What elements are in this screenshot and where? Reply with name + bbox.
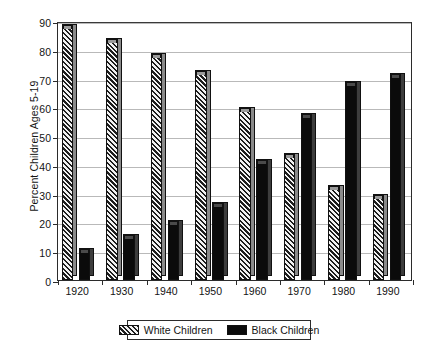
x-tick-label-1940: 1940	[154, 285, 177, 297]
bar-white-children-1960	[239, 107, 255, 280]
bar-white-children-1930	[106, 38, 122, 280]
legend-label-white-children: White Children	[144, 324, 213, 336]
bar-side-face	[224, 202, 228, 276]
bar-top-face	[240, 108, 250, 112]
bar-top-face	[374, 195, 384, 199]
bar-top-face	[196, 71, 206, 75]
bar-front-face	[123, 234, 135, 280]
bar-front-face	[168, 220, 180, 280]
x-tick-mark	[280, 280, 281, 285]
bar-series-container	[58, 23, 411, 280]
bar-side-face	[118, 38, 122, 276]
bar-top-face	[257, 160, 267, 164]
bar-side-face	[162, 53, 166, 276]
bar-top-face	[391, 74, 401, 78]
bar-side-face	[179, 220, 183, 276]
plot-area: 0102030405060708090	[57, 22, 412, 281]
bar-white-children-1990	[373, 194, 389, 280]
bar-white-children-1950	[195, 70, 211, 280]
y-tick-label: 30	[39, 190, 51, 202]
bar-front-face	[284, 153, 296, 280]
legend-item-white-children: White Children	[119, 324, 213, 336]
bar-side-face	[73, 24, 77, 276]
bar-front-face	[106, 38, 118, 280]
bar-white-children-1980	[328, 185, 344, 280]
bar-front-face	[212, 202, 224, 280]
bar-top-face	[152, 54, 162, 58]
x-tick-mark	[147, 280, 148, 285]
x-tick-mark	[324, 280, 325, 285]
bar-side-face	[384, 194, 388, 276]
x-tick-mark	[58, 280, 59, 285]
bar-front-face	[195, 70, 207, 280]
bar-top-face	[346, 82, 356, 86]
bar-front-face	[62, 24, 74, 280]
bar-chart-figure: Percent Children Ages 5-19 0102030405060…	[0, 0, 438, 353]
bar-front-face	[256, 159, 268, 280]
y-tick-label: 0	[45, 276, 51, 288]
bar-top-face	[169, 221, 179, 225]
bar-side-face	[207, 70, 211, 276]
bar-black-children-1990	[390, 73, 406, 280]
bar-top-face	[124, 235, 134, 239]
bar-side-face	[251, 107, 255, 276]
legend-item-black-children: Black Children	[227, 324, 320, 336]
bar-front-face	[239, 107, 251, 280]
chart-legend: White Children Black Children	[127, 320, 311, 340]
y-tick-label: 70	[39, 75, 51, 87]
bar-side-face	[295, 153, 299, 276]
y-tick-label: 50	[39, 132, 51, 144]
bar-top-face	[285, 154, 295, 158]
bar-black-children-1960	[256, 159, 272, 280]
bar-black-children-1970	[301, 113, 317, 280]
bar-top-face	[213, 203, 223, 207]
y-tick-label: 90	[39, 17, 51, 29]
x-tick-label-1980: 1980	[332, 285, 355, 297]
x-tick-mark	[413, 280, 414, 285]
bar-side-face	[268, 159, 272, 276]
bar-side-face	[401, 73, 405, 276]
x-tick-mark	[102, 280, 103, 285]
legend-label-black-children: Black Children	[252, 324, 320, 336]
bar-white-children-1920	[62, 24, 78, 280]
bar-side-face	[340, 185, 344, 276]
bar-side-face	[90, 248, 94, 276]
bar-side-face	[135, 234, 139, 276]
y-tick-label: 20	[39, 218, 51, 230]
bar-black-children-1950	[212, 202, 228, 280]
x-tick-label-1930: 1930	[110, 285, 133, 297]
bar-top-face	[80, 249, 90, 253]
bar-black-children-1920	[79, 248, 95, 280]
bar-front-face	[373, 194, 385, 280]
bar-black-children-1940	[168, 220, 184, 280]
bar-front-face	[151, 53, 163, 280]
x-tick-mark	[369, 280, 370, 285]
bar-black-children-1930	[123, 234, 139, 280]
bar-top-face	[302, 114, 312, 118]
bar-top-face	[329, 186, 339, 190]
x-tick-label-1970: 1970	[287, 285, 310, 297]
y-axis-title: Percent Children Ages 5-19	[28, 26, 40, 266]
x-tick-label-1950: 1950	[199, 285, 222, 297]
bar-front-face	[328, 185, 340, 280]
bar-front-face	[390, 73, 402, 280]
bar-side-face	[357, 81, 361, 276]
x-tick-label-1960: 1960	[243, 285, 266, 297]
bar-black-children-1980	[345, 81, 361, 280]
bar-front-face	[345, 81, 357, 280]
x-tick-label-1990: 1990	[376, 285, 399, 297]
bar-front-face	[79, 248, 91, 280]
legend-swatch-black-children	[227, 325, 247, 335]
bar-white-children-1940	[151, 53, 167, 280]
y-tick-label: 10	[39, 247, 51, 259]
bar-side-face	[312, 113, 316, 276]
x-tick-mark	[191, 280, 192, 285]
y-tick-label: 40	[39, 161, 51, 173]
x-tick-label-1920: 1920	[66, 285, 89, 297]
legend-swatch-white-children	[119, 325, 139, 335]
bar-top-face	[63, 25, 73, 29]
bar-front-face	[301, 113, 313, 280]
y-tick-label: 60	[39, 103, 51, 115]
x-tick-mark	[236, 280, 237, 285]
bar-top-face	[107, 39, 117, 43]
